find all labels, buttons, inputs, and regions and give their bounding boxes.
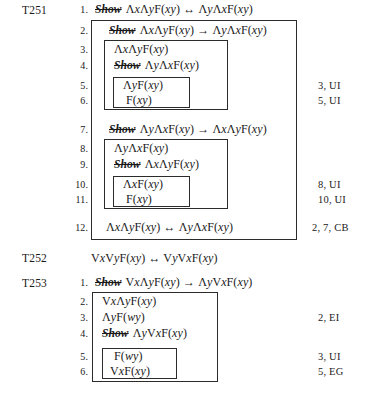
line-number: 12.	[62, 222, 88, 233]
proof-line-formula: Show ΛxΛyF(xy) ↔ ΛyΛxF(xy)	[95, 2, 253, 17]
theorem-label-t252: T252	[22, 252, 47, 264]
line-number: 5.	[62, 351, 88, 362]
formula-text: ΛyΛxF(xy)	[145, 58, 199, 72]
formula-text: F(wy)	[114, 349, 143, 363]
line-number: 4.	[62, 60, 88, 71]
proof-line-formula: Show ΛyΛxF(xy) → ΛxΛyF(xy)	[109, 122, 267, 137]
line-number: 11.	[62, 194, 88, 205]
proof-line-formula: ΛxΛyF(xy)	[114, 42, 168, 57]
show-keyword: Show	[109, 24, 137, 36]
line-number: 6.	[62, 366, 88, 377]
formula-text: ΛyΛxF(xy)	[114, 141, 168, 155]
proof-line-formula: VxΛyF(xy)	[102, 294, 156, 309]
line-number: 8.	[62, 143, 88, 154]
formula-text: ΛyΛxF(xy) → ΛxΛyF(xy)	[140, 122, 267, 136]
proof-line-formula: ΛxΛyF(xy) ↔ ΛyΛxF(xy)	[106, 220, 233, 235]
line-number: 7.	[62, 124, 88, 135]
formula-text: ΛxΛyF(xy) ↔ ΛyΛxF(xy)	[126, 2, 253, 16]
formula-text: VxΛyF(xy)	[102, 294, 156, 308]
proof-line-formula: ΛyF(wy)	[102, 310, 145, 325]
line-annotation: 2, 7, CB	[312, 222, 349, 233]
line-number: 1.	[62, 4, 88, 15]
formula-text: ΛxΛyF(xy) → ΛyΛxF(xy)	[140, 23, 267, 37]
line-annotation: 3, UI	[318, 351, 341, 362]
line-number: 2.	[62, 296, 88, 307]
proof-line-formula: Show ΛxΛyF(xy) → ΛyΛxF(xy)	[109, 23, 267, 38]
formula-text: ΛxΛyF(xy) ↔ ΛyΛxF(xy)	[106, 220, 233, 234]
line-number: 6.	[62, 95, 88, 106]
line-number: 3.	[62, 44, 88, 55]
theorem-label-t251: T251	[22, 4, 47, 16]
proof-line-formula: Show ΛyVxF(xy)	[102, 326, 187, 341]
line-number: 9.	[62, 159, 88, 170]
proof-line-formula: ΛxF(xy)	[123, 177, 163, 192]
proof-line-formula: ΛyF(xy)	[123, 78, 163, 93]
formula-text: F(xy)	[126, 192, 152, 206]
line-annotation: 10, UI	[318, 194, 346, 205]
line-annotation: 8, UI	[318, 179, 341, 190]
formula-text: F(xy)	[126, 93, 152, 107]
proof-line-formula: Show ΛyΛxF(xy)	[114, 58, 199, 73]
formula-text: ΛxΛyF(xy)	[145, 157, 199, 171]
proof-line-formula: VxF(xy)	[110, 364, 150, 379]
proof-line-formula: Show ΛxΛyF(xy)	[114, 157, 199, 172]
show-keyword: Show	[95, 3, 123, 15]
theorem-statement-t252: VxVyF(xy) ↔ VyVxF(xy)	[91, 251, 218, 266]
line-number: 3.	[62, 312, 88, 323]
line-annotation: 2, EI	[318, 312, 339, 323]
show-keyword: Show	[114, 158, 142, 170]
formula-text: ΛxF(xy)	[123, 177, 163, 191]
formula-text: VxΛyF(xy) → ΛyVxF(xy)	[126, 275, 253, 289]
line-number: 1.	[62, 277, 88, 288]
theorem-label-t253: T253	[22, 277, 47, 289]
proof-line-formula: ΛyΛxF(xy)	[114, 141, 168, 156]
line-number: 4.	[62, 328, 88, 339]
show-keyword: Show	[95, 276, 123, 288]
formula-text: ΛxΛyF(xy)	[114, 42, 168, 56]
formula-text: ΛyF(wy)	[102, 310, 145, 324]
line-annotation: 5, EG	[318, 366, 344, 377]
show-keyword: Show	[109, 123, 137, 135]
formula-text: VxF(xy)	[110, 364, 150, 378]
formula-text: ΛyVxF(xy)	[133, 326, 187, 340]
proof-line-formula: F(wy)	[114, 349, 143, 364]
proof-line-formula: F(xy)	[126, 93, 152, 108]
line-number: 10.	[62, 179, 88, 190]
line-number: 2.	[62, 25, 88, 36]
show-keyword: Show	[102, 327, 130, 339]
line-annotation: 3, UI	[318, 80, 341, 91]
show-keyword: Show	[114, 59, 142, 71]
proof-line-formula: Show VxΛyF(xy) → ΛyVxF(xy)	[95, 275, 252, 290]
proof-line-formula: F(xy)	[126, 192, 152, 207]
line-annotation: 5, UI	[318, 95, 341, 106]
line-number: 5.	[62, 80, 88, 91]
formula-text: ΛyF(xy)	[123, 78, 163, 92]
